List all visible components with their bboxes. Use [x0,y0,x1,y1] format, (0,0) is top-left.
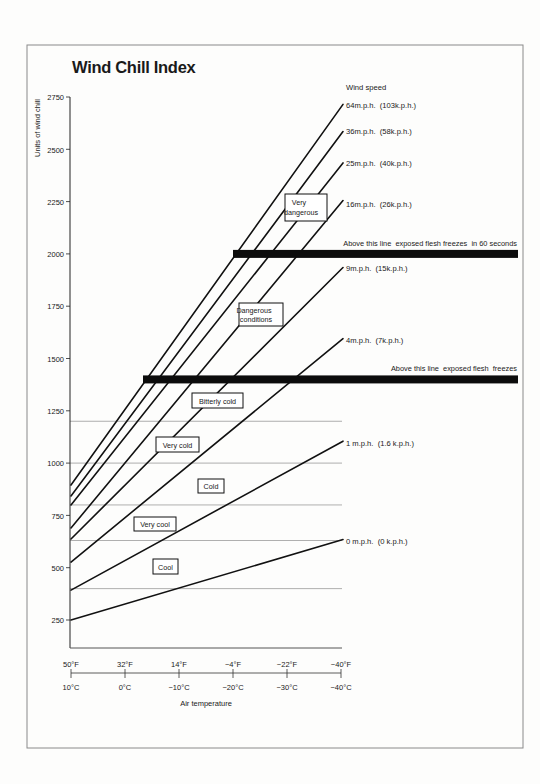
series-line-0mph [71,540,343,620]
x-tick-label-f: 14°F [171,660,187,669]
zone-label: Bitterly cold [199,397,236,406]
y-tick-label: 1500 [47,355,64,364]
zone-label: Cool [158,563,173,572]
x-tick-label-f: 50°F [63,660,79,669]
x-tick-labels-celsius: 10°C 0°C −10°C −20°C −30°C −40°C [63,683,353,692]
x-tick-labels-fahrenheit: 50°F 32°F 14°F −4°F −22°F −40°F [63,660,352,669]
reference-lines [70,421,342,588]
zone-label: Very dangerous [0,0,328,217]
y-tick-label: 2750 [47,93,64,102]
y-tick-label: 500 [51,564,64,573]
y-tick-label: 1000 [47,459,64,468]
y-tick-label: 250 [51,616,64,625]
zone-label: Very cool [140,520,170,529]
x-tick-label-c: −40°C [330,683,352,692]
x-tick-label-f: 32°F [117,660,133,669]
series-line-4mph [71,339,343,562]
wind-speed-legend: Wind speed 64m.p.h. (103k.p.h.) 36m.p.h.… [346,83,417,546]
legend-title: Wind speed [346,83,386,92]
threshold-bar-freezes [143,375,518,383]
legend-label-36mph: 36m.p.h. (58k.p.h.) [346,127,412,136]
axes [66,97,342,678]
x-tick-label-f: −4°F [225,660,242,669]
legend-label-9mph: 9m.p.h. (15k.p.h.) [346,264,408,273]
legend-label-4mph: 4m.p.h. (7k.p.h.) [346,336,404,345]
chart-title: Wind Chill Index [72,58,197,76]
x-tick-label-c: −20°C [222,683,244,692]
figure-frame [27,45,523,748]
zone-label: Dangerous conditions [0,0,286,324]
threshold-bar-60-seconds [233,250,518,258]
x-axis-label: Air temperature [180,699,232,708]
x-tick-label-c: −10°C [168,683,190,692]
zone-cold: Cold [198,479,224,493]
x-tick-label-c: 10°C [63,683,80,692]
legend-label-25mph: 25m.p.h. (40k.p.h.) [346,159,412,168]
legend-label-64mph: 64m.p.h. (103k.p.h.) [346,101,417,110]
threshold-label-60-seconds: Above this line exposed flesh freezes in… [343,239,517,248]
zone-cool: Cool [153,559,178,574]
series-lines [71,104,343,620]
y-tick-labels: 2750 2500 2250 2000 1750 1500 1250 1000 … [47,93,64,625]
series-line-36mph [71,132,343,496]
y-axis-label: Units of wind chill [33,99,42,157]
x-tick-label-c: 0°C [119,683,132,692]
x-tick-label-f: −22°F [277,660,298,669]
threshold-label-freezes: Above this line exposed flesh freezes [391,364,517,373]
y-tick-label: 2500 [47,146,64,155]
y-tick-label: 750 [51,512,64,521]
legend-label-16mph: 16m.p.h. (26k.p.h.) [346,200,412,209]
zone-very-dangerous: Very dangerous [0,0,328,221]
y-tick-label: 1250 [47,407,64,416]
legend-label-0mph: 0 m.p.h. (0 k.p.h.) [346,537,408,546]
y-tick-label: 2250 [47,198,64,207]
legend-label-1mph: 1 m.p.h. (1.6 k.p.h.) [346,439,414,448]
zone-very-cold: Very cold [156,437,199,452]
x-tick-label-f: −40°F [331,660,352,669]
y-tick-label: 1750 [47,302,64,311]
zone-very-cool: Very cool [134,517,176,531]
series-line-1mph [71,441,343,590]
zone-label: Very cold [163,441,193,450]
wind-chill-figure: Wind Chill Index Units of wind chill 275… [0,0,540,784]
zone-label: Cold [204,482,219,491]
series-line-64mph [71,104,343,485]
x-tick-label-c: −30°C [276,683,298,692]
y-tick-label: 2000 [47,250,64,259]
zone-bitterly-cold: Bitterly cold [192,393,243,408]
zone-dangerous-conditions: Dangerous conditions [0,0,286,326]
